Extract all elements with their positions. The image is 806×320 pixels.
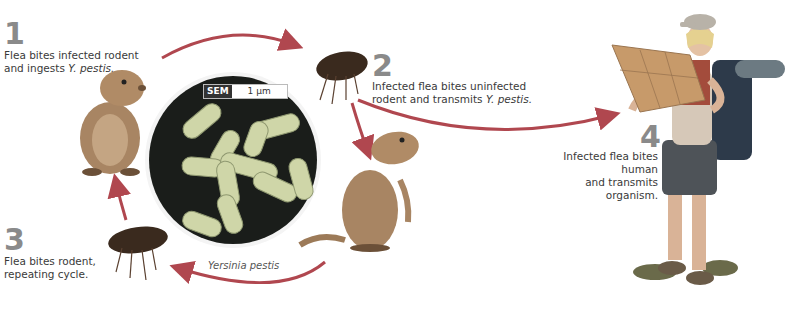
step-4-line-2: and transmits organism. [538,176,658,202]
step-4-number: 4 [640,123,660,151]
step-4-text: Infected flea bites human and transmits … [538,150,658,202]
hiker-image [0,0,806,320]
step-4-line-1: Infected flea bites human [538,150,658,176]
